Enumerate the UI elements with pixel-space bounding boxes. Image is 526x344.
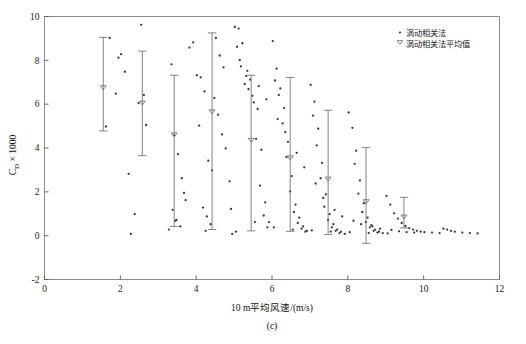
data-point	[330, 231, 332, 233]
data-point	[235, 231, 237, 233]
data-point	[317, 128, 319, 130]
data-point	[284, 131, 286, 133]
data-point	[219, 54, 221, 56]
data-point	[244, 83, 246, 85]
data-point	[323, 206, 325, 208]
data-point	[255, 138, 257, 140]
data-point	[368, 232, 370, 234]
data-point	[246, 70, 248, 72]
data-point	[404, 225, 406, 227]
data-point	[412, 228, 414, 230]
data-point	[332, 223, 334, 225]
data-point	[278, 94, 280, 96]
data-point	[213, 97, 215, 99]
data-point	[349, 231, 351, 233]
x-tick-label: 4	[194, 284, 199, 294]
data-point	[256, 108, 258, 110]
data-point	[413, 231, 415, 233]
data-point	[310, 84, 312, 86]
data-point	[397, 217, 399, 219]
data-point	[200, 76, 202, 78]
data-point	[401, 222, 403, 224]
data-point	[115, 93, 117, 95]
subfigure-label: (c)	[267, 321, 278, 332]
data-point	[405, 231, 407, 233]
data-point	[215, 37, 217, 39]
data-point	[450, 230, 452, 232]
data-point	[393, 212, 395, 214]
data-point	[333, 209, 335, 211]
data-point	[109, 37, 111, 39]
data-point	[352, 220, 354, 222]
data-point	[335, 230, 337, 232]
data-point	[264, 201, 266, 203]
data-point	[222, 66, 224, 68]
data-point	[385, 195, 387, 197]
y-tick-label: 0	[35, 231, 40, 241]
scatter-chart: 024681012 -20246810 CD × 1000 10 m平均风速/(…	[0, 0, 526, 344]
data-point	[275, 68, 277, 70]
figure-container: 024681012 -20246810 CD × 1000 10 m平均风速/(…	[0, 0, 526, 344]
data-point	[390, 229, 392, 231]
data-point	[304, 231, 306, 233]
data-point	[231, 233, 233, 235]
data-point	[476, 232, 478, 234]
data-point	[287, 141, 289, 143]
data-point	[297, 222, 299, 224]
data-point	[361, 211, 363, 213]
y-tick-label: 10	[30, 12, 40, 22]
data-point	[196, 74, 198, 76]
data-point	[181, 177, 183, 179]
data-point	[240, 65, 242, 67]
data-point	[338, 232, 340, 234]
data-point	[206, 215, 208, 217]
data-point	[298, 217, 300, 219]
data-point	[265, 98, 267, 100]
data-point	[130, 233, 132, 235]
data-point	[419, 231, 421, 233]
data-point	[143, 94, 145, 96]
data-point	[225, 147, 227, 149]
y-tick-label: 8	[35, 56, 40, 66]
data-point	[446, 228, 448, 230]
data-point	[254, 221, 256, 223]
data-point	[137, 102, 139, 104]
data-point	[207, 160, 209, 162]
data-point	[359, 179, 361, 181]
data-point	[253, 101, 255, 103]
data-point	[279, 87, 281, 89]
data-point	[389, 203, 391, 205]
data-point	[293, 211, 295, 213]
data-point	[268, 221, 270, 223]
legend-entry-mean: 涡动相关法平均值	[397, 39, 470, 49]
y-tick-label: 2	[35, 187, 40, 197]
data-point	[371, 225, 373, 227]
data-point	[177, 153, 179, 155]
data-point	[355, 149, 357, 151]
data-point	[312, 114, 314, 116]
data-point	[341, 215, 343, 217]
data-point	[140, 24, 142, 26]
data-point	[134, 213, 136, 215]
data-point	[331, 226, 333, 228]
data-point	[316, 144, 318, 146]
data-point	[379, 228, 381, 230]
data-point	[313, 100, 315, 102]
data-point	[360, 223, 362, 225]
x-tick-label: 12	[495, 284, 505, 294]
data-point	[294, 203, 296, 205]
data-point	[302, 225, 304, 227]
data-point	[221, 133, 223, 135]
data-point	[263, 214, 265, 216]
x-tick-label: 6	[270, 284, 275, 294]
x-tick-label: 0	[42, 284, 47, 294]
data-point	[351, 127, 353, 129]
plot-frame	[45, 17, 500, 280]
data-point	[105, 125, 107, 127]
data-point	[398, 230, 400, 232]
data-point	[408, 227, 410, 229]
data-point	[322, 197, 324, 199]
data-point	[300, 228, 302, 230]
data-point	[241, 42, 243, 44]
data-point	[170, 63, 172, 65]
